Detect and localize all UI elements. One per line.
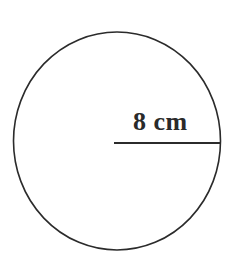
circle-outline: [14, 32, 221, 250]
geometry-figure: 8 cm: [0, 0, 237, 264]
radius-measure-label: 8 cm: [133, 108, 188, 136]
circle-diagram-svg: [0, 0, 237, 264]
